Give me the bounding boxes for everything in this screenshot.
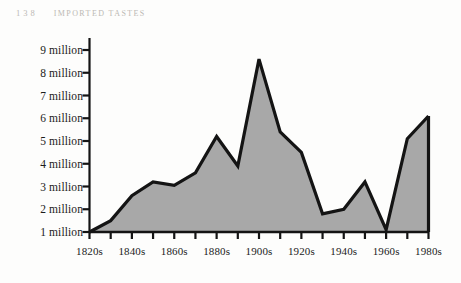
x-axis-tick-label: 1960s bbox=[373, 245, 400, 257]
x-axis-tick-label: 1940s bbox=[330, 245, 357, 257]
x-axis-labels: 1820s1840s1860s1880s1900s1920s1940s1960s… bbox=[0, 28, 461, 283]
x-axis-tick-label: 1880s bbox=[203, 245, 230, 257]
page-folio-number: 138 bbox=[16, 8, 38, 18]
x-axis-tick-label: 1860s bbox=[161, 245, 188, 257]
x-axis-tick-label: 1900s bbox=[246, 245, 273, 257]
x-axis-tick-label: 1920s bbox=[288, 245, 315, 257]
x-axis-tick-label: 1840s bbox=[118, 245, 145, 257]
area-chart-figure: 1 million2 million3 million4 million5 mi… bbox=[0, 28, 461, 283]
x-axis-tick-label: 1820s bbox=[76, 245, 103, 257]
running-head-title: Imported Tastes bbox=[54, 9, 146, 18]
x-axis-tick-label: 1980s bbox=[415, 245, 442, 257]
running-head: 138 Imported Tastes bbox=[16, 8, 146, 18]
book-page: 138 Imported Tastes 1 million2 million3 … bbox=[0, 0, 461, 283]
